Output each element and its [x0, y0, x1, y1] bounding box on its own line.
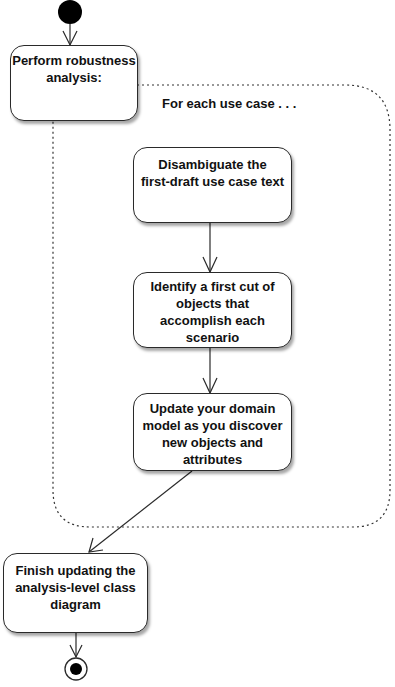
activity-label-line: Disambiguate the — [134, 156, 291, 173]
activity-disambiguate-use-case-text[interactable]: Disambiguate the first-draft use case te… — [133, 147, 292, 223]
activity-label-line: analysis: — [11, 69, 137, 86]
final-node-core — [70, 663, 82, 675]
activity-label-line: Perform robustness — [11, 52, 137, 69]
activity-label-line: model as you discover — [134, 417, 291, 434]
activity-label-line: new objects and — [134, 434, 291, 451]
activity-perform-robustness-analysis[interactable]: Perform robustness analysis: — [10, 45, 138, 121]
activity-label-line: Update your domain — [134, 400, 291, 417]
initial-node — [58, 0, 82, 24]
activity-diagram: Perform robustness analysis: For each us… — [0, 0, 395, 687]
activity-label-line: attributes — [134, 451, 291, 468]
activity-label-line: diagram — [4, 596, 147, 613]
activity-label-line: scenario — [134, 329, 291, 346]
activity-label-line: accomplish each — [134, 312, 291, 329]
activity-label-line: analysis-level class — [4, 579, 147, 596]
activity-label-line: objects that — [134, 295, 291, 312]
activity-update-domain-model[interactable]: Update your domain model as you discover… — [133, 393, 292, 471]
activity-identify-first-cut-objects[interactable]: Identify a first cut of objects that acc… — [133, 272, 292, 348]
flow-update-to-finish — [89, 471, 192, 552]
activity-label-line: Finish updating the — [4, 562, 147, 579]
activity-label-line: first-draft use case text — [134, 173, 291, 190]
activity-label-line: Identify a first cut of — [134, 278, 291, 295]
expansion-region-label: For each use case . . . — [162, 96, 296, 111]
activity-finish-class-diagram[interactable]: Finish updating the analysis-level class… — [3, 553, 148, 633]
